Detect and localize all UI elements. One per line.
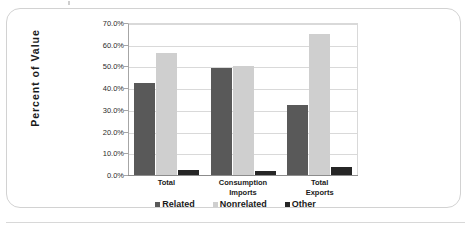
- x-axis-category-label-line: Exports: [306, 188, 334, 197]
- y-axis-tick-label: 60.0%: [80, 41, 124, 50]
- y-axis-tick-mark: [124, 132, 128, 133]
- y-axis-tick-mark: [124, 88, 128, 89]
- legend-swatch-icon: [213, 202, 218, 207]
- x-axis-category-label: Total: [128, 178, 205, 188]
- legend-item-nonrelated[interactable]: Nonrelated: [213, 199, 267, 209]
- bar-other-consumption-imports: [255, 171, 276, 175]
- chart-legend: RelatedNonrelatedOther: [0, 199, 471, 209]
- bar-related-total: [134, 83, 155, 175]
- legend-swatch-icon: [285, 202, 290, 207]
- bar-nonrelated-total-exports: [309, 34, 330, 175]
- x-axis-line: [128, 175, 358, 176]
- y-axis-tick-label: 40.0%: [80, 84, 124, 93]
- x-axis-category-label: ConsumptionImports: [205, 178, 282, 197]
- y-axis-tick-label: 0.0%: [80, 171, 124, 180]
- legend-item-other[interactable]: Other: [285, 199, 316, 209]
- legend-label: Nonrelated: [220, 199, 267, 209]
- y-axis-tick-mark: [124, 175, 128, 176]
- x-axis-category-label-line: Imports: [229, 188, 257, 197]
- bar-nonrelated-consumption-imports: [233, 66, 254, 175]
- y-axis-tick-label: 70.0%: [80, 19, 124, 28]
- x-axis-category-label-line: Consumption: [219, 178, 267, 187]
- legend-label: Related: [162, 199, 195, 209]
- legend-item-related[interactable]: Related: [155, 199, 195, 209]
- bar-other-total: [178, 170, 199, 175]
- y-axis-tick-mark: [124, 110, 128, 111]
- y-axis-tick-mark: [124, 153, 128, 154]
- bar-other-total-exports: [331, 167, 352, 175]
- y-axis-tick-mark: [124, 23, 128, 24]
- bar-chart: Percent of Value 0.0%10.0%20.0%30.0%40.0…: [0, 0, 471, 233]
- y-axis-title: Percent of Value: [29, 13, 41, 143]
- gridline: [129, 24, 357, 25]
- y-axis-tick-label: 10.0%: [80, 149, 124, 158]
- bar-related-total-exports: [287, 105, 308, 175]
- y-axis-tick-label: 30.0%: [80, 106, 124, 115]
- legend-label: Other: [292, 199, 316, 209]
- x-axis-category-label-line: Total: [158, 178, 175, 187]
- bar-related-consumption-imports: [211, 68, 232, 175]
- legend-swatch-icon: [155, 202, 160, 207]
- y-axis-tick-mark: [124, 66, 128, 67]
- y-axis-tick-label: 20.0%: [80, 128, 124, 137]
- x-axis-category-label: TotalExports: [281, 178, 358, 197]
- y-axis-tick-label: 50.0%: [80, 62, 124, 71]
- bar-nonrelated-total: [156, 53, 177, 175]
- x-axis-category-label-line: Total: [311, 178, 328, 187]
- y-axis-tick-mark: [124, 45, 128, 46]
